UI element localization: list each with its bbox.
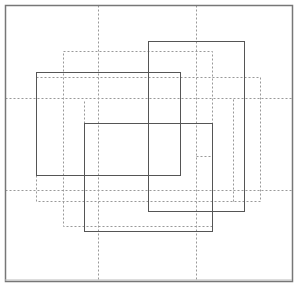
solid-rectangles — [37, 42, 245, 232]
diagram-canvas — [0, 0, 296, 286]
